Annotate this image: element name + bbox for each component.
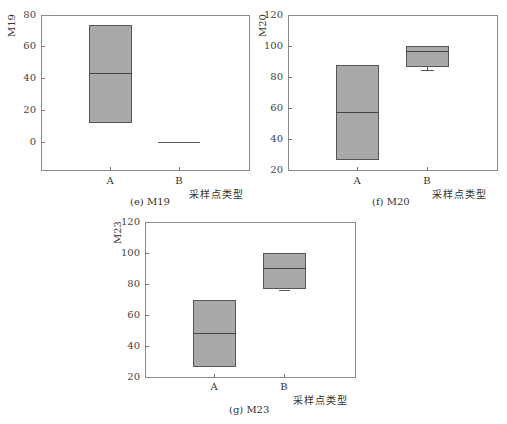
chart-caption: (f) M20 <box>372 196 410 207</box>
y-tick-label: 60 <box>116 310 140 320</box>
y-tick-label: 80 <box>12 10 36 20</box>
y-tick-label: 40 <box>259 134 283 144</box>
y-tick <box>145 346 149 347</box>
y-tick <box>41 142 45 143</box>
x-axis-title: 采样点类型 <box>293 392 348 407</box>
plot-frame <box>288 15 498 171</box>
chart-caption: (e) M19 <box>130 196 170 207</box>
median-a <box>89 73 132 74</box>
x-tick <box>357 167 358 171</box>
x-axis-title: 采样点类型 <box>432 186 487 201</box>
x-axis-title: 采样点类型 <box>189 186 244 201</box>
y-tick-label: 20 <box>259 165 283 175</box>
x-tick-label: A <box>347 175 367 186</box>
y-tick-label: 0 <box>12 137 36 147</box>
chart-caption: (g) M23 <box>229 404 269 415</box>
y-tick-label: 120 <box>259 10 283 20</box>
y-tick-label: 40 <box>12 73 36 83</box>
x-tick-label: B <box>274 381 294 392</box>
median-a <box>336 112 379 113</box>
x-tick-label: B <box>417 175 437 186</box>
y-tick-label: 100 <box>259 41 283 51</box>
y-tick <box>288 139 292 140</box>
y-tick <box>288 108 292 109</box>
y-tick <box>41 46 45 47</box>
y-tick-label: 80 <box>259 72 283 82</box>
plot-frame <box>145 222 356 378</box>
median-b <box>263 268 306 269</box>
y-tick-label: 20 <box>116 372 140 382</box>
x-tick <box>427 167 428 171</box>
y-tick <box>41 110 45 111</box>
x-tick <box>179 167 180 171</box>
y-tick-label: 120 <box>116 217 140 227</box>
y-tick <box>288 77 292 78</box>
y-tick-label: 80 <box>116 279 140 289</box>
whisker-cap-b <box>421 70 434 71</box>
box-b <box>158 142 200 143</box>
y-tick <box>41 78 45 79</box>
whisker-cap-b <box>279 290 290 291</box>
x-tick-label: A <box>204 381 224 392</box>
plot-frame <box>41 15 250 171</box>
x-tick-label: B <box>169 175 189 186</box>
y-tick <box>145 253 149 254</box>
x-tick <box>110 167 111 171</box>
x-tick <box>284 374 285 378</box>
y-tick <box>145 284 149 285</box>
x-tick-label: A <box>100 175 120 186</box>
box-b <box>263 253 306 289</box>
y-tick-label: 100 <box>116 248 140 258</box>
box-b <box>406 46 449 67</box>
median-a <box>193 333 236 334</box>
median-b <box>406 51 449 52</box>
y-tick-label: 40 <box>116 341 140 351</box>
x-tick <box>214 374 215 378</box>
box-a <box>89 25 132 123</box>
y-tick-label: 20 <box>12 105 36 115</box>
y-tick <box>288 46 292 47</box>
y-tick <box>145 315 149 316</box>
y-tick-label: 60 <box>259 103 283 113</box>
y-tick-label: 60 <box>12 41 36 51</box>
